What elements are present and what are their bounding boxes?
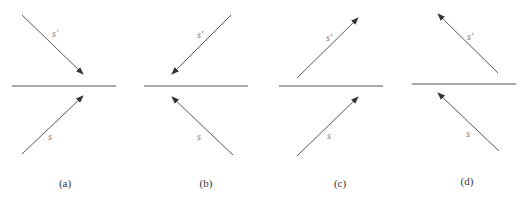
diagram-canvas: s's(a)s's(b)s's(c)s's(d) [0, 0, 522, 204]
label-s-prime: s' [197, 29, 204, 40]
label-s-prime: s' [467, 31, 474, 42]
incident-arrow-icon [297, 97, 358, 156]
label-s-prime: s' [326, 32, 333, 43]
label-s: s [466, 128, 470, 139]
reflected-arrow-icon [172, 15, 231, 74]
reflected-arrow-icon [438, 14, 498, 73]
panel-a: s's(a) [12, 15, 116, 190]
label-s: s [197, 131, 201, 142]
incident-arrow-icon [438, 93, 499, 151]
incident-arrow-icon [22, 96, 83, 154]
panel-caption: (c) [334, 177, 347, 190]
panel-b: s's(b) [144, 15, 248, 190]
panel-caption: (d) [461, 175, 474, 188]
panel-c: s's(c) [279, 18, 383, 190]
panel-caption: (b) [200, 177, 213, 190]
incident-arrow-icon [172, 97, 233, 155]
reflected-arrow-icon [22, 15, 83, 74]
panel-caption: (a) [59, 177, 72, 190]
reflected-arrow-icon [297, 18, 358, 78]
label-s: s [48, 131, 52, 142]
panel-d: s's(d) [412, 14, 516, 188]
label-s: s [327, 130, 331, 141]
label-s-prime: s' [52, 28, 59, 39]
